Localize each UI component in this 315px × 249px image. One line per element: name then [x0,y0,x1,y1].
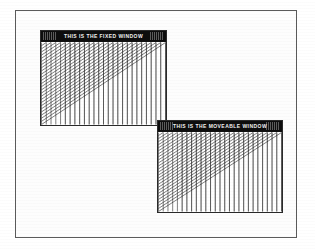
client-area-moveable [158,132,282,212]
string-art-graphic-fixed [41,42,166,125]
window-fixed[interactable]: THIS IS THE FIXED WINDOW [40,30,167,126]
title-bar-fixed[interactable]: THIS IS THE FIXED WINDOW [41,31,166,42]
title-hatch-left-icon [43,32,57,40]
window-moveable[interactable]: THIS IS THE MOVEABLE WINDOW [157,120,283,213]
window-title-moveable: THIS IS THE MOVEABLE WINDOW [173,123,267,130]
window-title-fixed: THIS IS THE FIXED WINDOW [64,33,143,40]
title-hatch-right-icon [150,32,164,40]
screen-canvas: THIS IS THE FIXED WINDOW THIS IS THE MOV… [0,0,315,249]
string-art-graphic-moveable [158,132,282,212]
title-hatch-right-icon [266,122,280,130]
title-bar-moveable[interactable]: THIS IS THE MOVEABLE WINDOW [158,121,282,132]
client-area-fixed [41,42,166,125]
title-hatch-left-icon [160,122,174,130]
